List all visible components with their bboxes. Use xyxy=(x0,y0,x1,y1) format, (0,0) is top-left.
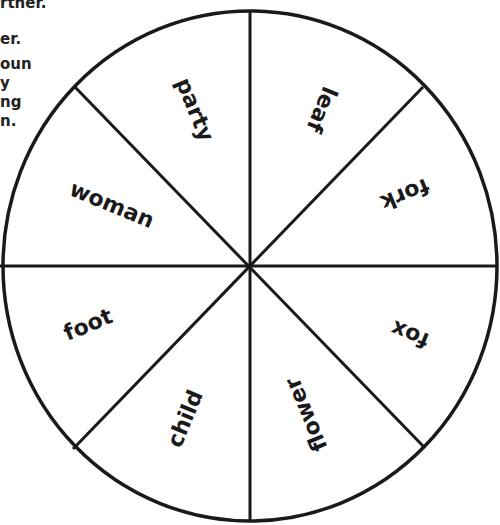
divider-diagonal-2 xyxy=(73,87,423,449)
word-wheel xyxy=(0,0,500,525)
